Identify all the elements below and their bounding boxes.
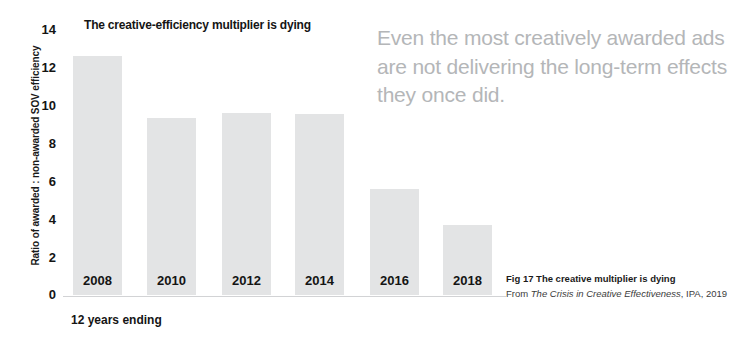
bar-2012[interactable]: 2012 bbox=[222, 113, 271, 295]
caption-figure-label: Fig 17 bbox=[506, 273, 533, 284]
bar-label-2010: 2010 bbox=[147, 273, 196, 288]
figure-bar-chart: The creative-efficiency multiplier is dy… bbox=[0, 0, 750, 345]
caption-title-text: The creative multiplier is dying bbox=[536, 273, 675, 284]
y-tick-0: 0 bbox=[30, 287, 56, 302]
caption-source-prefix: From bbox=[506, 288, 528, 299]
caption-source-suffix: , IPA, 2019 bbox=[681, 288, 727, 299]
figure-caption: Fig 17 The creative multiplier is dying … bbox=[506, 272, 746, 301]
caption-source-work: The Crisis in Creative Effectiveness bbox=[531, 288, 681, 299]
bar-label-2016: 2016 bbox=[370, 273, 419, 288]
bar-2016[interactable]: 2016 bbox=[370, 189, 419, 295]
x-axis-title: 12 years ending bbox=[71, 313, 162, 327]
bar-label-2014: 2014 bbox=[295, 273, 344, 288]
bar-label-2008: 2008 bbox=[73, 273, 122, 288]
bar-2008[interactable]: 2008 bbox=[73, 56, 122, 295]
bar-label-2012: 2012 bbox=[222, 273, 271, 288]
bar-2010[interactable]: 2010 bbox=[147, 118, 196, 295]
caption-source-line: From The Crisis in Creative Effectivenes… bbox=[506, 287, 746, 301]
x-axis-line bbox=[63, 296, 506, 297]
y-axis-title: Ratio of awarded : non-awarded SOV effic… bbox=[30, 41, 41, 271]
bar-2014[interactable]: 2014 bbox=[295, 114, 344, 295]
y-tick-14: 14 bbox=[30, 22, 56, 37]
pull-quote: Even the most creatively awarded ads are… bbox=[377, 24, 732, 110]
caption-title-line: Fig 17 The creative multiplier is dying bbox=[506, 272, 746, 286]
bar-2018[interactable]: 2018 bbox=[443, 225, 492, 295]
bar-label-2018: 2018 bbox=[443, 273, 492, 288]
